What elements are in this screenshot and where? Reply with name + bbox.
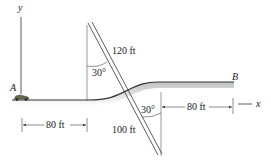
right-horizontal-length: 80 ft bbox=[187, 102, 206, 112]
lower-angle-label: 30° bbox=[141, 105, 155, 115]
diagram-graphics bbox=[0, 0, 271, 161]
left-horizontal-length: 80 ft bbox=[46, 120, 65, 130]
y-axis-label: y bbox=[18, 3, 22, 13]
angle-arc-upper bbox=[87, 62, 107, 67]
lower-diagonal-length: 100 ft bbox=[112, 125, 136, 135]
upper-diagonal-length: 120 ft bbox=[112, 46, 136, 56]
point-b-label: B bbox=[232, 72, 238, 82]
upper-angle-label: 30° bbox=[92, 68, 106, 78]
point-a-label: A bbox=[10, 83, 16, 93]
diagram-canvas: y x A B 120 ft 30° 30° 100 ft 80 ft 80 f… bbox=[0, 0, 271, 161]
x-axis-label: x bbox=[256, 99, 260, 109]
